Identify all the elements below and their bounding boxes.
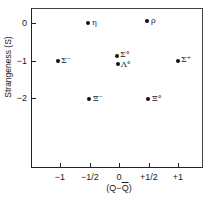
label-sigma-plus: Σ⁺ <box>181 56 191 64</box>
x-tick <box>178 163 179 168</box>
point-lambda-zero <box>116 62 120 66</box>
point-xi-zero <box>146 97 150 101</box>
x-axis-title-prefix: (Q− <box>106 183 121 193</box>
x-tick-label: −1 <box>45 172 75 182</box>
x-tick <box>149 163 150 168</box>
particle-scatter-chart: 0 −1 −2 −1 −1/2 0 +1/2 +1 Strangeness (S… <box>0 0 210 200</box>
x-axis-title-bar: Q <box>122 183 129 193</box>
point-sigma-plus <box>176 59 180 63</box>
point-eta <box>86 21 90 25</box>
point-sigma-minus <box>56 59 60 63</box>
x-tick-label: +1/2 <box>134 172 164 182</box>
x-tick <box>90 163 91 168</box>
y-tick-0 <box>31 23 36 24</box>
label-xi-minus: Ξ⁻ <box>93 95 103 103</box>
point-rho <box>145 19 149 23</box>
label-xi-zero: Ξ° <box>152 95 162 103</box>
x-axis-title: (Q−Q) <box>99 183 139 193</box>
x-tick-label: 0 <box>104 172 134 182</box>
x-tick <box>60 163 61 168</box>
point-sigma-zero <box>115 54 119 58</box>
label-sigma-zero: Σ° <box>120 51 130 59</box>
label-rho: ρ <box>151 17 156 25</box>
x-tick <box>119 163 120 168</box>
y-tick-minus1 <box>31 61 36 62</box>
x-tick-label: +1 <box>163 172 193 182</box>
label-lambda-zero: Λ° <box>121 61 131 69</box>
label-sigma-minus: Σ⁻ <box>61 57 71 65</box>
x-axis-title-suffix: ) <box>129 183 132 193</box>
point-xi-minus <box>87 97 91 101</box>
plot-frame <box>31 8 203 168</box>
x-tick-label: −1/2 <box>75 172 105 182</box>
y-tick-minus2 <box>31 98 36 99</box>
label-eta: η <box>92 19 97 27</box>
y-axis-title: Strangeness (S) <box>3 27 13 107</box>
